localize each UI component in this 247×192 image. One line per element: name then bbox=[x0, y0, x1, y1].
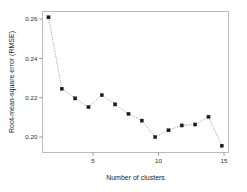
data-point bbox=[167, 129, 170, 132]
data-point bbox=[100, 94, 103, 97]
data-point bbox=[60, 87, 63, 90]
plot-frame bbox=[43, 12, 229, 153]
x-tick-label: 10 bbox=[155, 157, 162, 164]
data-point bbox=[207, 115, 210, 118]
data-point bbox=[47, 16, 50, 19]
y-tick-label: 0.26 bbox=[25, 15, 38, 22]
y-tick-label: 0.24 bbox=[25, 55, 38, 62]
data-point bbox=[127, 112, 130, 115]
data-point bbox=[140, 119, 143, 122]
data-point bbox=[194, 123, 197, 126]
data-point bbox=[154, 135, 157, 138]
data-point bbox=[87, 106, 90, 109]
data-point bbox=[114, 103, 117, 106]
x-tick-label: 15 bbox=[221, 157, 228, 164]
y-tick-label: 0.20 bbox=[25, 133, 38, 140]
x-axis-title: Number of clusters bbox=[106, 174, 165, 181]
chart-figure: 0.20 0.22 0.24 0.26 5 10 15 Number of cl… bbox=[0, 0, 247, 192]
x-tick-label: 5 bbox=[91, 157, 95, 164]
data-point bbox=[180, 124, 183, 127]
rmse-vs-clusters-line-chart: 0.20 0.22 0.24 0.26 5 10 15 Number of cl… bbox=[0, 0, 247, 192]
y-tick-label: 0.22 bbox=[25, 94, 38, 101]
data-point bbox=[74, 97, 77, 100]
y-axis-title: Root-mean-square error (RMSE) bbox=[8, 31, 16, 133]
data-point bbox=[220, 144, 223, 147]
